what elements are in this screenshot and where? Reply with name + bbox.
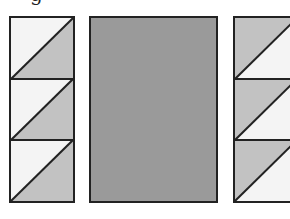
caption-text-fragment: g xyxy=(30,0,43,4)
left-panel-row-2 xyxy=(11,79,73,140)
right-triangle-panel-graphic xyxy=(235,18,290,201)
right-panel-row-1 xyxy=(235,18,290,79)
left-panel-row-3 xyxy=(11,140,73,201)
right-panel-row-2 xyxy=(235,79,290,140)
left-triangle-panel-graphic xyxy=(11,18,73,201)
center-solid-panel xyxy=(89,16,218,203)
left-panel-row-1 xyxy=(11,18,73,79)
right-triangle-panel xyxy=(233,16,290,203)
right-panel-row-3 xyxy=(235,140,290,201)
left-triangle-panel xyxy=(9,16,75,203)
center-solid-panel-graphic xyxy=(91,18,216,201)
